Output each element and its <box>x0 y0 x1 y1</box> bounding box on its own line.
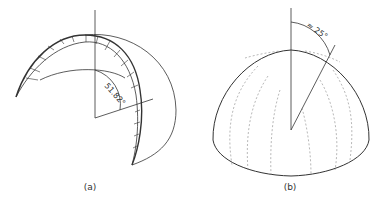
panel-b <box>213 8 369 176</box>
caption-b: (b) <box>284 182 297 192</box>
caption-a: (a) <box>84 182 97 192</box>
inner-back-curve <box>40 70 125 80</box>
slanted-line <box>291 45 335 130</box>
angle-label-b: ≈ 25° <box>305 20 329 41</box>
panel-a <box>16 10 176 165</box>
back-shell <box>85 34 176 165</box>
figure-canvas: 51.82° (a) ≈ 25° (b) <box>0 0 385 209</box>
